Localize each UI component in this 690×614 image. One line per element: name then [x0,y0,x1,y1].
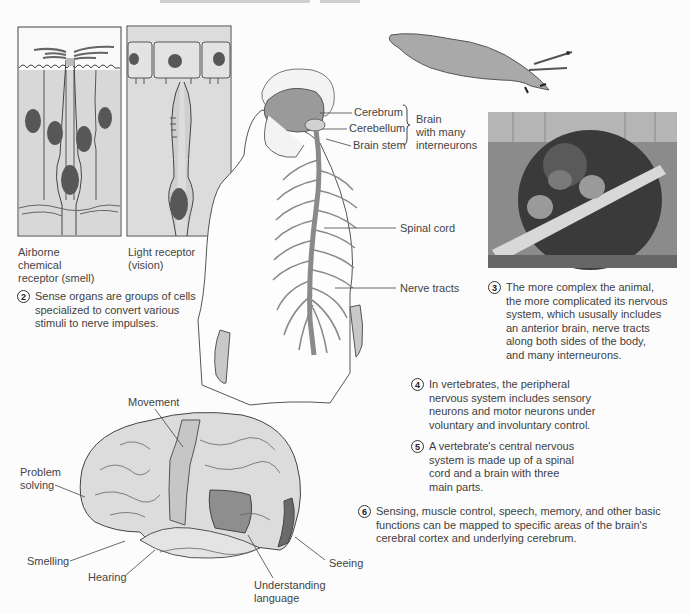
step-number-badge: 6 [358,505,371,518]
note-line: Sense organs are groups of cells [35,290,217,304]
cerebrum-label: Cerebrum [354,106,403,119]
note-2: 2 Sense organs are groups of cells speci… [17,290,217,331]
note-line: In vertebrates, the peripheral [429,378,631,392]
brain-stem-label: Brain stem [353,139,406,152]
label-line: interneurons [416,139,477,152]
smell-receptor-panel [18,27,121,236]
note-line: system is made up of a spinal [429,454,631,468]
label-line: Brain [416,113,477,126]
label-line: with many [416,126,477,139]
label-line: solving [20,479,61,492]
note-4: 4 In vertebrates, the peripheral nervous… [411,378,631,432]
step-number-badge: 3 [488,281,501,294]
cerebellum-label: Cerebellum [349,122,405,135]
note-line: cord and a brain with three [429,467,631,481]
note-line: system, which ususally includes [506,308,688,322]
step-number-badge: 5 [411,440,424,453]
step-number-badge: 4 [411,378,424,391]
note-line: specialized to convert various [35,304,217,318]
understanding-language-label: Understanding language [254,579,326,605]
smelling-label: Smelling [27,555,69,568]
note-line: voluntary and involuntary control. [429,419,631,433]
hearing-label: Hearing [88,571,127,584]
note-3: 3 The more complex the animal, the more … [488,281,688,362]
label-line: Airborne [18,246,94,259]
brain-cortex-map [80,412,300,558]
nerve-tracts-label: Nerve tracts [400,282,459,295]
note-6: 6 Sensing, muscle control, speech, memor… [358,505,688,546]
smell-receptor-label: Airborne chemical receptor (smell) [18,246,94,285]
note-line: The more complex the animal, [506,281,688,295]
label-line: Problem [20,466,61,479]
note-line: Sensing, muscle control, speech, memory,… [376,505,688,519]
light-receptor-label: Light receptor (vision) [128,246,195,272]
problem-solving-label: Problem solving [20,466,61,492]
spinal-cord-label: Spinal cord [400,222,455,235]
note-line: main parts. [429,481,631,495]
label-line: Light receptor [128,246,195,259]
movement-label: Movement [128,396,179,409]
seeing-label: Seeing [329,557,363,570]
note-line: cerebral cortex and underlying cerebrum. [376,532,688,546]
label-line: (vision) [128,259,195,272]
note-line: an anterior brain, nerve tracts [506,322,688,336]
cutoff-header-text [160,0,360,3]
label-line: receptor (smell) [18,272,94,285]
note-line: along both sides of the body, [506,335,688,349]
label-line: chemical [18,259,94,272]
note-line: neurons and motor neurons under [429,405,631,419]
note-line: stimuli to nerve impulses. [35,317,217,331]
orangutan-photo [488,112,677,270]
note-line: the more complicated its nervous [506,295,688,309]
slug-illustration [389,34,572,93]
label-line: language [254,592,326,605]
note-line: and many interneurons. [506,349,688,363]
note-line: functions can be mapped to specific area… [376,519,688,533]
note-5: 5 A vertebrate's central nervous system … [411,440,631,494]
label-line: Understanding [254,579,326,592]
brain-group-label: Brain with many interneurons [416,113,477,152]
note-line: nervous system includes sensory [429,392,631,406]
note-line: A vertebrate's central nervous [429,440,631,454]
step-number-badge: 2 [17,290,30,303]
